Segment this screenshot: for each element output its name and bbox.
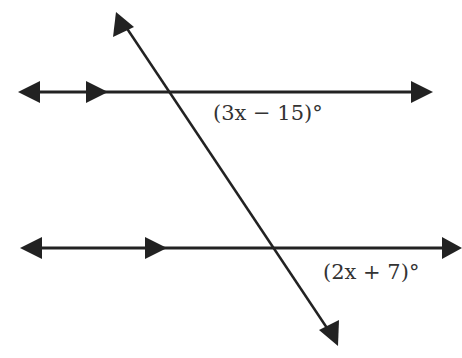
angle-label-top: (3x − 15)° — [213, 101, 323, 125]
diagram-canvas — [0, 0, 462, 358]
angle-label-bottom: (2x + 7)° — [323, 260, 419, 284]
top-line-left-arrow-icon — [18, 81, 40, 103]
top-line-right-arrow-icon — [411, 81, 433, 103]
bottom-line-right-arrow-icon — [442, 237, 462, 259]
top-line-parallel-mark-icon — [86, 81, 108, 103]
transversal-line — [124, 24, 331, 334]
bottom-line-parallel-mark-icon — [145, 237, 167, 259]
transversal-bottom-arrow-icon — [319, 320, 339, 346]
bottom-line-left-arrow-icon — [20, 237, 42, 259]
